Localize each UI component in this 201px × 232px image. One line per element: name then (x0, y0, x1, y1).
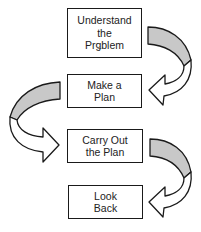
step-2-line-2: Plan (94, 91, 115, 104)
step-make-a-plan: Make a Plan (67, 74, 142, 108)
step-3-line-1: Carry Out (82, 134, 128, 147)
step-1-line-3: Prǥblem (85, 39, 124, 52)
step-2-line-1: Make a (87, 79, 121, 92)
step-understand-the-problem: Understand the Prǥblem (67, 8, 142, 58)
step-4-line-1: Look (94, 190, 117, 203)
step-1-line-2: the (97, 27, 112, 40)
step-3-line-2: the Plan (86, 146, 125, 159)
curved-arrow-1-to-2 (148, 27, 191, 105)
step-look-back: Look Back (68, 185, 143, 219)
curved-arrow-2-to-3 (10, 82, 60, 162)
step-4-line-2: Back (94, 202, 117, 215)
step-carry-out-the-plan: Carry Out the Plan (67, 129, 143, 163)
curved-arrow-3-to-4 (149, 139, 191, 217)
step-1-line-1: Understand (77, 14, 131, 27)
